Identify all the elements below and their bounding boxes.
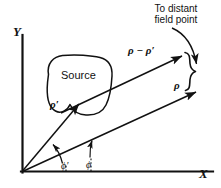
rho-minus-rho-prime-vector xyxy=(61,56,182,113)
x-axis-label: X xyxy=(199,167,208,181)
phi-arc xyxy=(90,141,92,158)
rho-prime-vector xyxy=(23,104,80,171)
phi-label: ϕ xyxy=(86,160,91,171)
distant-field-point-annotation: To distant field point xyxy=(139,4,213,25)
vector-diagram-figure: Y X ρ − ρ′ ρ ρ′ Source ϕ′ ϕ To distant f… xyxy=(0,0,221,188)
rho-prime-label: ρ′ xyxy=(50,99,59,111)
rho-vector xyxy=(23,92,197,172)
y-axis-label: Y xyxy=(13,25,21,39)
field-point-brace xyxy=(185,53,196,91)
phi-prime-label: ϕ′ xyxy=(61,161,68,172)
rho-minus-rho-prime-label: ρ − ρ′ xyxy=(128,45,155,57)
rho-label: ρ xyxy=(174,80,180,92)
source-region-label: Source xyxy=(61,70,96,82)
diagram-canvas xyxy=(0,0,221,188)
